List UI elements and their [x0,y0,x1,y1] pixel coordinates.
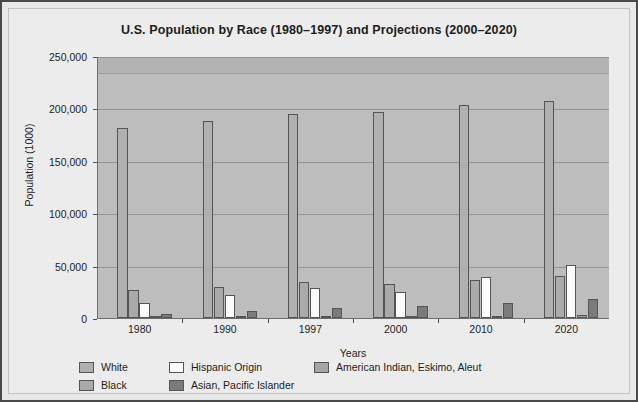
legend-item-hispanic-origin[interactable]: Hispanic Origin [169,361,262,373]
y-axis-tick-label: 250,000 [49,51,87,63]
x-axis-tick-label-2010: 2010 [469,323,492,335]
legend-item-american-indian-eskimo-aleut[interactable]: American Indian, Eskimo, Aleut [314,361,481,373]
gridline [98,214,609,215]
bar-1997-white [288,114,299,318]
bar-2000-white [373,112,384,318]
x-axis-tick-mark [524,319,525,323]
bar-2020-black [555,276,566,318]
bar-2010-hispanic-origin [481,277,492,318]
x-axis-tick-label-1990: 1990 [213,323,236,335]
bar-2000-black [384,284,395,318]
chart-frame: U.S. Population by Race (1980–1997) and … [0,0,638,402]
legend-label: Black [101,379,127,391]
bar-2020-asian-pacific-islander [588,299,599,318]
gridline [98,162,609,163]
legend-label: Asian, Pacific Islander [191,379,294,391]
page-title: U.S. Population by Race (1980–1997) and … [9,23,629,37]
bar-1997-black [299,282,310,318]
y-axis-tick-label: 50,000 [55,261,87,273]
bar-2020-american-indian-eskimo-aleut [577,315,588,318]
bar-1997-hispanic-origin [310,288,321,318]
x-axis-tick-mark [353,319,354,323]
bar-2000-asian-pacific-islander [417,306,428,318]
chart-inner-panel: U.S. Population by Race (1980–1997) and … [8,8,630,394]
bar-2000-hispanic-origin [395,292,406,318]
bar-2020-white [544,101,555,318]
bar-1990-asian-pacific-islander [247,311,258,318]
legend-swatch-icon [79,380,94,391]
bar-1980-american-indian-eskimo-aleut [150,316,161,318]
bar-1980-white [117,128,128,318]
bar-1980-hispanic-origin [139,303,150,318]
x-axis-tick-mark [182,319,183,323]
gridline [98,57,609,58]
legend-label: Hispanic Origin [191,361,262,373]
bar-1990-white [203,121,214,318]
bar-1997-american-indian-eskimo-aleut [321,316,332,318]
legend-swatch-icon [169,380,184,391]
x-axis-tick-mark [268,319,269,323]
bar-2000-american-indian-eskimo-aleut [406,316,417,318]
x-axis-tick-label-1997: 1997 [299,323,322,335]
y-axis-tick-mark [93,319,97,320]
y-axis-tick-label: 150,000 [49,156,87,168]
bar-1980-black [128,290,139,318]
bar-2010-asian-pacific-islander [503,303,514,318]
bar-1997-asian-pacific-islander [332,308,343,318]
bar-1980-asian-pacific-islander [161,314,172,318]
scan-artifact-line [98,73,609,74]
legend-swatch-icon [169,362,184,373]
legend-label: American Indian, Eskimo, Aleut [336,361,481,373]
bar-1990-american-indian-eskimo-aleut [236,316,247,318]
y-axis-title: Population (1000) [23,85,35,245]
bar-1990-black [214,287,225,318]
bar-2020-hispanic-origin [566,265,577,318]
x-axis-tick-label-2020: 2020 [555,323,578,335]
bar-2010-black [470,280,481,318]
x-axis-tick-label-2000: 2000 [384,323,407,335]
legend-label: White [101,361,128,373]
legend-item-asian-pacific-islander[interactable]: Asian, Pacific Islander [169,379,294,391]
legend-item-black[interactable]: Black [79,379,127,391]
gridline [98,109,609,110]
legend-swatch-icon [314,362,329,373]
legend: WhiteBlackHispanic OriginAsian, Pacific … [79,361,599,401]
x-axis-title: Years [97,347,609,359]
x-axis-tick-label-1980: 1980 [128,323,151,335]
plot-area [97,57,609,319]
y-axis-tick-label: 200,000 [49,103,87,115]
y-axis-tick-label: 0 [81,313,87,325]
legend-swatch-icon [79,362,94,373]
legend-item-white[interactable]: White [79,361,128,373]
bar-2010-white [459,105,470,318]
bar-2010-american-indian-eskimo-aleut [492,316,503,318]
bar-1990-hispanic-origin [225,295,236,318]
y-axis-tick-label: 100,000 [49,208,87,220]
plot-top-band [98,57,609,74]
x-axis-tick-mark [438,319,439,323]
y-axis-labels: 050,000100,000150,000200,000250,000 [9,57,93,319]
gridline [98,267,609,268]
